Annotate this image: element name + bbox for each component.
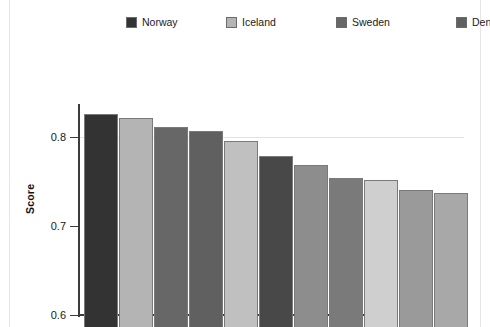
legend-label: Denmark <box>472 17 490 28</box>
bar-iceland[interactable] <box>119 118 153 327</box>
bar-united-states[interactable] <box>434 193 468 327</box>
bar-chart-figure: NorwayIcelandSwedenDenmarkFinlandNetherl… <box>0 0 490 327</box>
bar-netherlands[interactable] <box>259 156 293 327</box>
bar-new-zealand[interactable] <box>364 180 398 327</box>
legend-item[interactable]: Sweden <box>336 13 456 32</box>
legend-label: Iceland <box>242 17 276 28</box>
legend-swatch-icon <box>226 17 237 28</box>
bars-container <box>80 104 464 327</box>
page-edge-right <box>480 0 481 327</box>
bar-denmark[interactable] <box>189 131 223 327</box>
page-edge-left <box>9 0 10 327</box>
bar-norway[interactable] <box>84 114 118 327</box>
legend-swatch-icon <box>336 17 347 28</box>
legend-item[interactable]: Iceland <box>226 13 336 32</box>
bar-canada[interactable] <box>294 165 328 327</box>
legend-item[interactable]: Denmark <box>456 13 490 32</box>
bar-sweden[interactable] <box>154 127 188 327</box>
bar-germany[interactable] <box>329 178 363 327</box>
legend-swatch-icon <box>456 17 467 28</box>
y-tick-label: 0.6 <box>0 309 66 321</box>
legend-label: Norway <box>142 17 178 28</box>
y-axis-title: Score <box>24 184 36 214</box>
y-tick-label: 0.7 <box>0 220 66 232</box>
legend-label: Sweden <box>352 17 390 28</box>
legend-swatch-icon <box>126 17 137 28</box>
y-tick-label: 0.8 <box>0 131 66 143</box>
bar-finland[interactable] <box>224 141 258 327</box>
bar-australia[interactable] <box>399 190 433 327</box>
legend-item[interactable]: Norway <box>126 13 226 32</box>
chart-legend: NorwayIcelandSwedenDenmarkFinlandNetherl… <box>126 13 456 95</box>
